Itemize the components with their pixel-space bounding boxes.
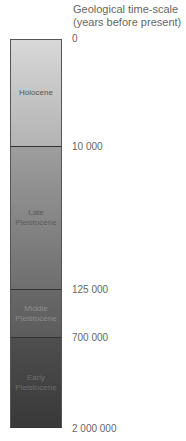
epoch-late-pleistocene: Late Pleistocene: [10, 147, 62, 290]
epoch-label-line-1: Early: [15, 373, 56, 383]
diagram-title: Geological time-scale (years before pres…: [73, 3, 181, 29]
epoch-label-line-1: Late: [15, 208, 56, 218]
tick-label-700000: 700 000: [72, 332, 108, 343]
epoch-label-line-2: Pleistocene: [15, 218, 56, 228]
epoch-label-line-1: Middle: [15, 304, 56, 314]
epoch-early-pleistocene: Early Pleistocene: [10, 338, 62, 428]
epoch-holocene: Holocene: [10, 39, 62, 147]
tick-label-10000: 10 000: [72, 141, 103, 152]
epoch-middle-pleistocene: Middle Pleistocene: [10, 290, 62, 338]
tick-label-125000: 125 000: [72, 284, 108, 295]
epoch-label-line-2: Pleistocene: [15, 383, 56, 393]
epoch-label-line-2: Pleistocene: [15, 314, 56, 324]
title-line-1: Geological time-scale: [73, 3, 181, 16]
tick-label-2000000: 2 000 000: [72, 423, 117, 434]
epoch-label: Holocene: [19, 88, 53, 97]
title-line-2: (years before present): [73, 16, 181, 29]
tick-label-0: 0: [72, 33, 78, 44]
